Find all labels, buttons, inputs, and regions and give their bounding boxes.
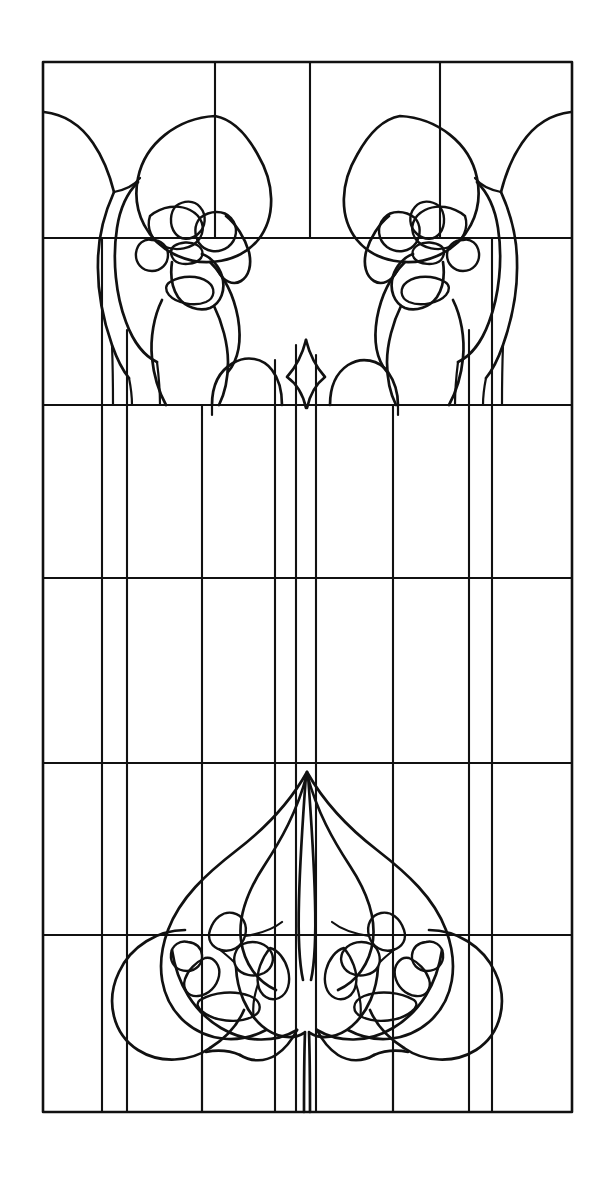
lotus-stem-left (304, 1032, 305, 1112)
stained-glass-pattern-illustration (0, 0, 605, 1185)
bud-stem-left-outer (112, 345, 113, 405)
page-root: Stained Glass Window Pattern (0, 0, 605, 1185)
bud-stem-right-outer (502, 345, 503, 405)
paper-background (0, 0, 605, 1185)
lotus-stem-right (309, 1032, 310, 1112)
